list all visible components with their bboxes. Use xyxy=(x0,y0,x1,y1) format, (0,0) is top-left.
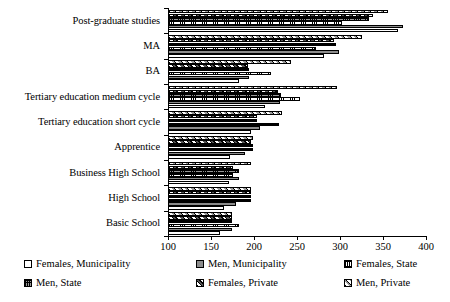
bar xyxy=(168,54,324,57)
legend-row: Men, StateFemales, PrivateMen, Private xyxy=(24,277,434,294)
category-label: BA xyxy=(146,65,160,76)
legend-label: Females, Private xyxy=(208,277,278,288)
bar xyxy=(168,130,251,133)
y-axis-tick xyxy=(164,109,168,110)
y-axis-tick xyxy=(164,33,168,34)
x-axis-tick-label: 200 xyxy=(246,241,262,252)
x-axis-tick-label: 150 xyxy=(203,241,219,252)
bar xyxy=(168,231,220,234)
bar xyxy=(168,79,239,82)
legend-swatch-icon xyxy=(344,279,352,287)
legend-item[interactable]: Females, Municipality xyxy=(24,258,131,269)
legend-label: Men, Municipality xyxy=(208,258,287,269)
bar-chart: Post-graduate studiesMABATertiary educat… xyxy=(0,0,450,302)
legend-item[interactable]: Men, State xyxy=(24,277,82,288)
x-axis-tick xyxy=(340,236,341,240)
bar xyxy=(168,29,398,32)
x-axis-tick-label: 400 xyxy=(418,241,434,252)
bar xyxy=(168,155,230,158)
legend-label: Men, State xyxy=(36,277,82,288)
category-label: Tertiary education short cycle xyxy=(38,116,160,127)
legend-label: Men, Private xyxy=(356,277,410,288)
y-axis-tick xyxy=(164,135,168,136)
bar xyxy=(168,105,265,108)
category-label: Apprentice xyxy=(114,141,160,152)
legend-label: Females, State xyxy=(356,258,417,269)
category-label: MA xyxy=(143,40,160,51)
legend-swatch-icon xyxy=(196,260,204,268)
x-axis-tick-label: 100 xyxy=(160,241,176,252)
x-axis-tick-label: 350 xyxy=(375,241,391,252)
x-axis-tick-label: 300 xyxy=(332,241,348,252)
y-axis-tick xyxy=(164,84,168,85)
legend-item[interactable]: Men, Private xyxy=(344,277,410,288)
legend-swatch-icon xyxy=(344,260,352,268)
plot-area xyxy=(168,8,426,236)
category-label: Business High School xyxy=(69,167,160,178)
x-axis-tick xyxy=(168,236,169,240)
category-label: Tertiary education medium cycle xyxy=(25,91,160,102)
bar xyxy=(168,206,224,209)
legend-swatch-icon xyxy=(196,279,204,287)
y-axis-tick xyxy=(164,59,168,60)
category-label: High School xyxy=(108,192,160,203)
legend-row: Females, MunicipalityMen, MunicipalityFe… xyxy=(24,258,434,275)
x-axis-tick xyxy=(254,236,255,240)
x-axis-tick xyxy=(211,236,212,240)
category-label: Basic School xyxy=(106,217,160,228)
x-axis-tick xyxy=(426,236,427,240)
x-axis-tick-label: 250 xyxy=(289,241,305,252)
x-axis-tick xyxy=(297,236,298,240)
legend-swatch-icon xyxy=(24,279,32,287)
legend-item[interactable]: Females, State xyxy=(344,258,417,269)
y-axis-tick xyxy=(164,185,168,186)
legend-swatch-icon xyxy=(24,260,32,268)
category-axis-labels: Post-graduate studiesMABATertiary educat… xyxy=(0,8,164,236)
x-axis-tick xyxy=(383,236,384,240)
y-axis-tick xyxy=(164,160,168,161)
y-axis-tick xyxy=(164,211,168,212)
category-label: Post-graduate studies xyxy=(73,15,160,26)
legend-item[interactable]: Men, Municipality xyxy=(196,258,287,269)
chart-legend: Females, MunicipalityMen, MunicipalityFe… xyxy=(24,258,434,298)
legend-label: Females, Municipality xyxy=(36,258,131,269)
legend-item[interactable]: Females, Private xyxy=(196,277,278,288)
bar xyxy=(168,181,229,184)
y-axis-tick xyxy=(164,8,168,9)
